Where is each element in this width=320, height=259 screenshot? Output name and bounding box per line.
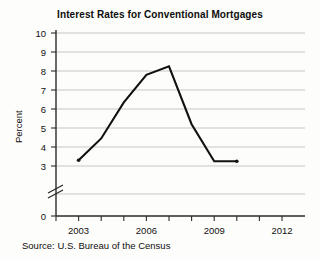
y-axis-tick-labels: 10 9 8 7 6 5 4 3 0 [35, 28, 46, 222]
chart-container: Interest Rates for Conventional Mortgage… [0, 0, 320, 259]
x-axis-ticks [56, 216, 282, 221]
y-tick-label-9: 9 [41, 47, 46, 58]
y-tick-label-7: 7 [41, 85, 46, 96]
data-point-marker [77, 159, 81, 163]
source-note: Source: U.S. Bureau of the Census [22, 240, 170, 251]
y-tick-label-5: 5 [41, 123, 46, 134]
y-tick-label-8: 8 [41, 66, 46, 77]
x-tick-label-2003: 2003 [68, 225, 89, 236]
y-tick-label-0: 0 [41, 211, 46, 222]
gridlines [56, 33, 305, 194]
y-tick-label-10: 10 [35, 28, 46, 39]
x-tick-label-2009: 2009 [204, 225, 225, 236]
chart-plot-area: 10 9 8 7 6 5 4 3 0 Percent [0, 0, 320, 259]
y-tick-label-6: 6 [41, 104, 46, 115]
y-tick-label-3: 3 [41, 161, 46, 172]
y-tick-label-4: 4 [41, 142, 46, 153]
y-axis-title: Percent [13, 110, 24, 143]
x-axis-tick-labels: 2003 2006 2009 2012 [68, 225, 293, 236]
x-tick-label-2012: 2012 [271, 225, 292, 236]
data-point-marker [235, 159, 239, 163]
x-tick-label-2006: 2006 [136, 225, 157, 236]
